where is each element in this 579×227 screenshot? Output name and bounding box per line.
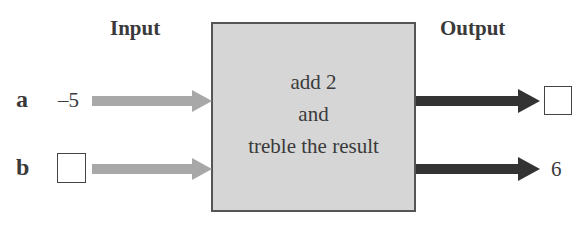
output-arrow-a <box>416 89 540 113</box>
output-arrow-b <box>416 157 540 181</box>
output-a-blank-box <box>544 86 572 115</box>
output-b-value: 6 <box>551 157 562 182</box>
arrows-layer <box>0 0 579 227</box>
input-arrow-b <box>92 158 212 180</box>
input-arrow-a <box>92 90 212 112</box>
